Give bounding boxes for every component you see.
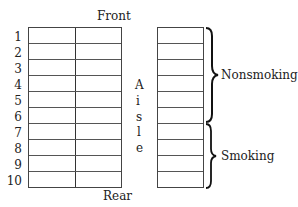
nonsmoking-brace-icon [206,28,218,122]
smoking-brace-icon [206,124,216,188]
nonsmoking-label: Nonsmoking [221,69,298,81]
section-braces [0,0,298,207]
smoking-label: Smoking [221,150,274,162]
